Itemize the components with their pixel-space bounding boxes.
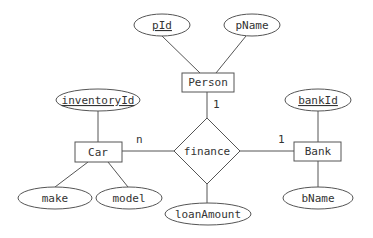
attribute-pname[interactable]: pName [224, 14, 280, 36]
attribute-make[interactable]: make [18, 187, 92, 209]
attribute-bname[interactable]: bName [283, 187, 353, 209]
attribute-label: bankId [298, 94, 338, 107]
relationship-finance[interactable]: finance [174, 118, 240, 184]
relationship-label: finance [184, 145, 230, 158]
cardinality-person: 1 [213, 98, 220, 111]
entity-bank[interactable]: Bank [294, 142, 341, 161]
attribute-model[interactable]: model [96, 187, 162, 209]
attribute-label: model [112, 192, 145, 205]
edge-pname-person [216, 36, 246, 73]
edge-car-make [55, 162, 88, 187]
edges [55, 36, 318, 203]
attribute-pid[interactable]: pId [134, 14, 190, 36]
er-diagram: pId pName inventoryId bankId make model … [0, 0, 373, 238]
edge-pid-person [162, 36, 200, 73]
attribute-bankid[interactable]: bankId [285, 89, 351, 111]
attribute-label: pName [235, 19, 268, 32]
entity-person[interactable]: Person [182, 73, 234, 92]
entity-label: Bank [305, 145, 332, 158]
entity-label: Car [88, 146, 108, 159]
cardinality-car: n [136, 133, 143, 146]
entity-car[interactable]: Car [75, 142, 122, 162]
attribute-label: make [42, 192, 69, 205]
entity-label: Person [188, 76, 228, 89]
attribute-inventoryid[interactable]: inventoryId [56, 89, 140, 111]
edge-car-model [108, 162, 128, 187]
attribute-loanamount[interactable]: loanAmount [165, 203, 251, 225]
attribute-label: loanAmount [175, 208, 241, 221]
attribute-label: inventoryId [62, 94, 135, 107]
attribute-label: pId [152, 19, 172, 32]
cardinality-bank: 1 [278, 133, 285, 146]
attribute-label: bName [301, 192, 334, 205]
